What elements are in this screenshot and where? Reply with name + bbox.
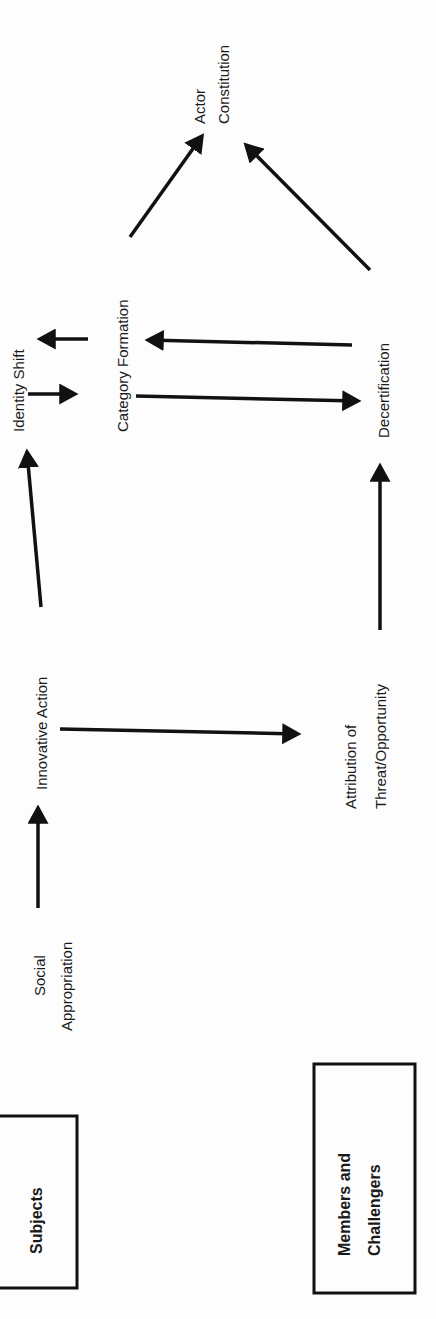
arrow-decertification-to-actor — [246, 145, 370, 270]
social-appropriation-line1: Social — [31, 955, 48, 996]
node-identity-shift: Identity Shift — [10, 349, 27, 432]
arrow-category-to-decertification — [136, 396, 358, 401]
box-members-challengers: Members and Challengers — [314, 1064, 415, 1293]
arrow-category-to-actor — [130, 136, 202, 237]
attribution-line2: Threat/Opportunity — [372, 683, 389, 809]
arrow-innovative-to-attribution — [60, 729, 298, 734]
diagram-canvas: Actor Constitution Identity Shift Catego… — [0, 0, 436, 1319]
diagram-svg: Actor Constitution Identity Shift Catego… — [0, 0, 436, 1319]
members-label-line2: Challengers — [366, 1164, 383, 1256]
node-social-appropriation: Social Appropriation — [31, 942, 75, 1031]
node-innovative-action: Innovative Action — [33, 677, 50, 790]
actor-constitution-line1: Actor — [191, 89, 208, 124]
subjects-label: Subjects — [28, 1187, 45, 1254]
arrow-innovative-to-identity — [27, 452, 41, 607]
social-appropriation-line2: Appropriation — [58, 942, 75, 1031]
node-actor-constitution: Actor Constitution — [191, 45, 232, 124]
node-category-formation: Category Formation — [114, 299, 131, 432]
box-subjects: Subjects — [0, 1116, 77, 1288]
attribution-line1: Attribution of — [342, 724, 359, 809]
members-label-line1: Members and — [336, 1153, 353, 1256]
members-box-border — [314, 1064, 415, 1293]
node-attribution: Attribution of Threat/Opportunity — [342, 683, 389, 809]
actor-constitution-line2: Constitution — [215, 45, 232, 124]
arrow-decertification-to-category — [148, 340, 352, 345]
node-decertification: Decertification — [375, 343, 392, 438]
